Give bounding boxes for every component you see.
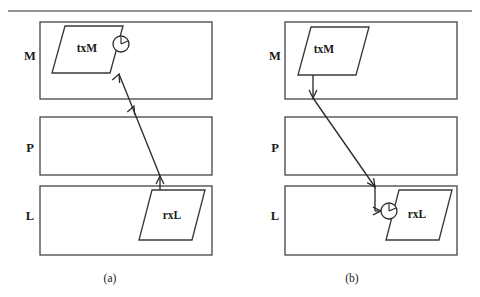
- diagram-canvas: MPLtxMrxL(a)MPLtxMrxL(b): [0, 0, 480, 297]
- node-label-b-rxL: rxL: [408, 208, 427, 220]
- layer-box-a-M: [40, 22, 212, 99]
- layer-box-b-P: [285, 117, 457, 175]
- node-label-a-rxL: rxL: [163, 209, 182, 221]
- layer-label-a-M: M: [24, 49, 36, 63]
- flow-arrowhead-a-2: [112, 74, 119, 83]
- layer-label-b-M: M: [269, 49, 281, 63]
- node-label-a-txM: txM: [77, 42, 98, 54]
- layer-label-a-L: L: [26, 209, 34, 223]
- layer-label-a-P: P: [26, 141, 34, 155]
- panel-caption-b: (b): [345, 272, 359, 285]
- layer-box-b-M: [285, 22, 457, 99]
- flow-line-b-1: [313, 98, 375, 187]
- flow-line-a-1: [119, 74, 160, 176]
- layer-box-a-L: [40, 186, 212, 255]
- layer-box-b-L: [285, 186, 457, 255]
- figure-root: MPLtxMrxL(a)MPLtxMrxL(b): [0, 0, 480, 297]
- node-label-b-txM: txM: [314, 43, 335, 55]
- layer-label-b-L: L: [271, 209, 279, 223]
- panel-caption-a: (a): [104, 272, 117, 285]
- layer-box-a-P: [40, 117, 212, 175]
- layer-label-b-P: P: [271, 141, 279, 155]
